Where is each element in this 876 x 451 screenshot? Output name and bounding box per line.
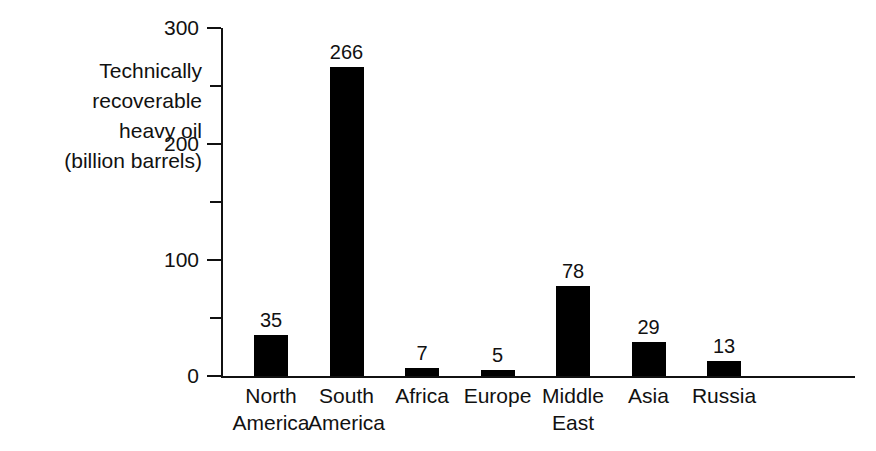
- y-tick-minor-250: [210, 85, 221, 87]
- y-tick-minor-150: [210, 201, 221, 203]
- bar-value-south-america: 266: [307, 42, 387, 62]
- y-tick-major-100: [207, 259, 221, 261]
- bar-value-russia: 13: [684, 336, 764, 356]
- bar-value-asia: 29: [609, 317, 689, 337]
- y-tick-major-0: [207, 375, 221, 377]
- bar-value-africa: 7: [382, 343, 462, 363]
- bar-label-line: America: [287, 409, 407, 436]
- bar-russia: [707, 361, 741, 376]
- y-tick-label-300: 300: [137, 17, 199, 38]
- bar-label-line: East: [513, 409, 633, 436]
- bar-asia: [632, 342, 666, 376]
- y-tick-major-300: [207, 27, 221, 29]
- bar-label-russia: Russia: [664, 382, 784, 409]
- bar-north-america: [254, 335, 288, 376]
- bar-africa: [405, 368, 439, 376]
- y-tick-label-100: 100: [137, 249, 199, 270]
- bar-label-line: Russia: [664, 382, 784, 409]
- y-tick-minor-50: [210, 317, 221, 319]
- bar-south-america: [330, 67, 364, 376]
- y-tick-label-200: 200: [137, 133, 199, 154]
- bar-value-middle-east: 78: [533, 261, 613, 281]
- y-tick-major-200: [207, 143, 221, 145]
- bar-europe: [481, 370, 515, 376]
- bar-value-north-america: 35: [231, 310, 311, 330]
- plot-area: 0100200300 35NorthAmerica266SouthAmerica…: [0, 0, 876, 451]
- bar-value-europe: 5: [458, 345, 538, 365]
- y-tick-label-0: 0: [137, 365, 199, 386]
- bar-middle-east: [556, 286, 590, 376]
- x-axis-line: [221, 376, 855, 378]
- y-axis-line: [221, 28, 223, 378]
- heavy-oil-bar-chart: Technically recoverable heavy oil (billi…: [0, 0, 876, 451]
